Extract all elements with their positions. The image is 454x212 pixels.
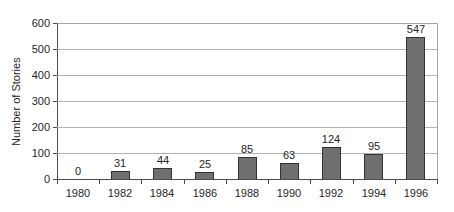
x-tick-label: 1980 (57, 187, 99, 199)
y-tick-label: 400 (0, 69, 50, 81)
y-tick-label: 600 (0, 17, 50, 29)
bar-value-label: 31 (99, 157, 141, 169)
x-tick (395, 179, 396, 184)
gridline (57, 49, 437, 50)
x-tick (268, 179, 269, 184)
x-tick-label: 1996 (395, 187, 437, 199)
y-tick (53, 49, 57, 50)
x-tick (226, 179, 227, 184)
bar (195, 172, 214, 179)
x-tick-label: 1982 (99, 187, 141, 199)
y-tick (53, 23, 57, 24)
bar-value-label: 547 (395, 23, 437, 35)
x-tick (353, 179, 354, 184)
gridline (57, 127, 437, 128)
bar (406, 37, 425, 179)
y-tick-label: 0 (0, 173, 50, 185)
bar (322, 147, 341, 179)
bar-value-label: 85 (226, 143, 268, 155)
x-tick (99, 179, 100, 184)
x-tick-label: 1984 (141, 187, 183, 199)
bar-value-label: 44 (142, 154, 184, 166)
y-tick (53, 153, 57, 154)
bar (153, 168, 172, 179)
y-tick (53, 75, 57, 76)
x-tick-label: 1994 (353, 187, 395, 199)
y-tick-label: 100 (0, 147, 50, 159)
bar-value-label: 124 (310, 133, 352, 145)
x-tick (437, 179, 438, 184)
bar (111, 171, 130, 179)
y-tick-label: 500 (0, 43, 50, 55)
bar-value-label: 0 (57, 165, 99, 177)
gridline (57, 101, 437, 102)
bar-chart: Number of Stories 6005004003002001000019… (0, 0, 454, 212)
x-tick-label: 1992 (310, 187, 352, 199)
bar-value-label: 95 (353, 140, 395, 152)
bar-value-label: 25 (184, 158, 226, 170)
y-tick-label: 300 (0, 95, 50, 107)
bar-value-label: 63 (268, 149, 310, 161)
x-tick-label: 1990 (268, 187, 310, 199)
x-tick (310, 179, 311, 184)
x-tick-label: 1986 (184, 187, 226, 199)
x-tick (141, 179, 142, 184)
gridline (57, 75, 437, 76)
x-tick-label: 1988 (226, 187, 268, 199)
y-tick-label: 200 (0, 121, 50, 133)
x-tick (184, 179, 185, 184)
bar (280, 163, 299, 179)
y-tick (53, 101, 57, 102)
bar (364, 154, 383, 179)
y-tick (53, 127, 57, 128)
x-tick (57, 179, 58, 184)
bar (238, 157, 257, 179)
